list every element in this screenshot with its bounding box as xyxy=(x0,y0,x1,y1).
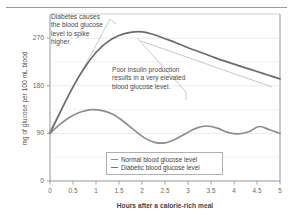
xtick-label-3: 3 xyxy=(178,187,198,194)
xtick-label-4: 4 xyxy=(224,187,244,194)
xtick-label-2p5: 2.5 xyxy=(155,187,175,194)
annotation-spike-text: Diabetes causes the blood glucose level … xyxy=(51,13,111,47)
xtick-label-4p5: 4.5 xyxy=(247,187,267,194)
chart-legend: Normal blood glucose level Diabetic bloo… xyxy=(106,152,223,175)
legend-swatch-normal-icon xyxy=(111,159,118,160)
series-line-normal xyxy=(50,110,280,144)
xtick-label-5: 5 xyxy=(270,187,290,194)
legend-item-diabetic: Diabetic blood glucose level xyxy=(111,163,218,171)
legend-swatch-diabetic-icon xyxy=(111,167,118,168)
xtick-label-2: 2 xyxy=(132,187,152,194)
xtick-label-0p5: 0.5 xyxy=(63,187,83,194)
legend-label-normal: Normal blood glucose level xyxy=(121,156,197,163)
xtick-label-1p5: 1.5 xyxy=(109,187,129,194)
xtick-label-1: 1 xyxy=(86,187,106,194)
ytick-label-0: 0 xyxy=(22,177,44,184)
ytick-label-270: 270 xyxy=(22,34,44,41)
annotation-insulin-text: Poor insulin production results in a ver… xyxy=(112,66,187,91)
xtick-label-3p5: 3.5 xyxy=(201,187,221,194)
xtick-label-0: 0 xyxy=(40,187,60,194)
legend-label-diabetic: Diabetic blood glucose level xyxy=(121,164,200,171)
glucose-chart-figure: 270 180 90 0 0 0.5 1 1.5 2 2.5 3 3.5 4 4… xyxy=(0,0,293,221)
x-axis-title: Hours after a calorie-rich meal xyxy=(50,202,280,209)
legend-item-normal: Normal blood glucose level xyxy=(111,155,218,163)
y-axis-title: mg of glucose per 100 mL blood xyxy=(21,44,28,154)
